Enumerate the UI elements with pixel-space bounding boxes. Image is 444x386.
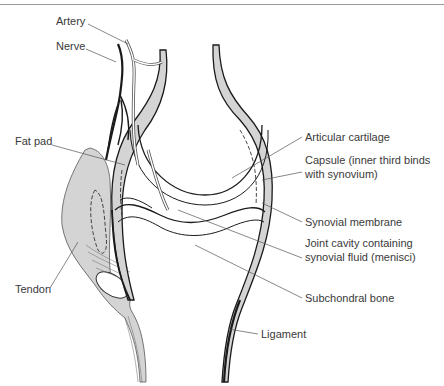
tibia-plateau-bone [118, 217, 264, 236]
tendon-shape [62, 148, 146, 382]
label-joint-cavity-line2: synovial fluid (menisci) [305, 251, 416, 264]
joint-cavity-top [120, 198, 152, 208]
label-nerve: Nerve [56, 40, 85, 53]
label-joint-cavity-line1: Joint cavity containing [305, 237, 413, 250]
label-tendon: Tendon [15, 283, 51, 296]
label-artery: Artery [56, 15, 85, 28]
leader-joint-cavity [178, 210, 302, 258]
label-subchondral-bone: Subchondral bone [305, 292, 394, 305]
tibia-plateau-cartilage [115, 205, 265, 223]
label-synovial-membrane: Synovial membrane [305, 216, 402, 229]
joint-illustration [0, 0, 444, 386]
label-capsule-line1: Capsule (inner third binds [305, 154, 430, 167]
label-articular-cartilage: Articular cartilage [305, 131, 390, 144]
leader-tendon [50, 242, 78, 288]
leader-nerve [86, 49, 116, 62]
leader-artery [88, 24, 128, 44]
articular-cartilage-upper [130, 130, 268, 205]
label-fat-pad: Fat pad [15, 135, 52, 148]
joint-diagram: Artery Nerve Fat pad Tendon Articular ca… [0, 0, 444, 386]
label-ligament: Ligament [261, 328, 306, 341]
label-capsule-line2: with synovium) [305, 168, 378, 181]
